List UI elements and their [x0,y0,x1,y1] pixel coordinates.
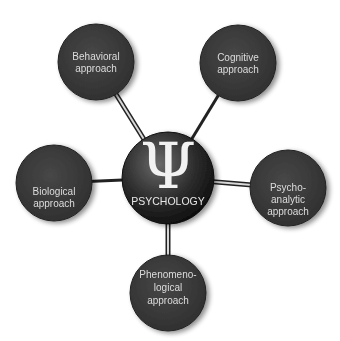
node-label-line: Phenomeno- [139,269,196,280]
node-label-line: Behavioral [72,51,119,62]
psi-icon: Ψ [140,129,196,203]
node-label-line: Psycho- [270,182,306,193]
node-behavioral: Behavioral approach [58,24,134,100]
node-phenomenological: Phenomeno- logical approach [130,255,206,331]
psychology-approaches-diagram: Behavioral approach Cognitive approach B… [0,0,340,341]
node-label-line: Cognitive [217,52,259,63]
node-label-line: analytic [271,194,305,205]
node-cognitive: Cognitive approach [200,25,276,101]
node-label-line: approach [267,206,309,217]
node-biological: Biological approach [16,145,92,221]
center-label: PSYCHOLOGY [131,195,205,207]
center-hub: Ψ PSYCHOLOGY [122,129,214,224]
node-label-line: logical [154,282,182,293]
node-label-line: approach [147,295,189,306]
node-label-line: approach [75,63,117,74]
node-label-line: approach [217,64,259,75]
node-label-line: Biological [33,186,76,197]
node-psychoanalytic: Psycho- analytic approach [250,150,326,226]
node-label-line: approach [33,198,75,209]
